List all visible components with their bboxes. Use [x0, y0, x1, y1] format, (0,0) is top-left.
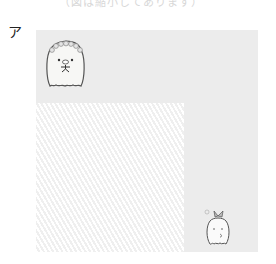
hatched-region: [36, 103, 184, 252]
white-creature-character-icon: [204, 204, 232, 248]
penguin-character-icon: [42, 38, 88, 90]
figure-label: ア: [8, 24, 22, 40]
top-caption: （図は縮小してあります）: [36, 0, 226, 5]
